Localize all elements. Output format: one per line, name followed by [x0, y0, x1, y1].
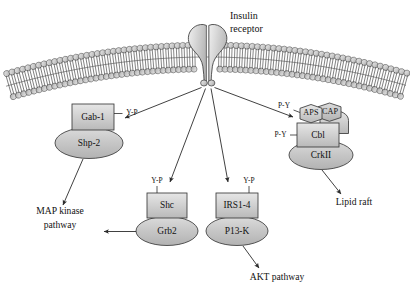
output-akt: AKT pathway: [250, 271, 305, 282]
node-shp2-label: Shp-2: [78, 138, 101, 148]
node-shc-label: Shc: [160, 200, 174, 210]
output-mapk-line1: MAP kinase: [36, 205, 83, 216]
receptor-label-line1: Insulin: [230, 10, 258, 21]
node-cbl-label: Cbl: [311, 130, 325, 140]
node-irs-label: IRS1-4: [223, 200, 250, 210]
phospho-label-shc: Y-P: [151, 176, 162, 185]
phospho-label-irs: Y-P: [243, 176, 254, 185]
phospho-label-aps: P-Y: [278, 101, 291, 110]
receptor-tip-right: [208, 80, 215, 86]
node-grb2-label: Grb2: [157, 226, 177, 236]
receptor-label-line2: receptor: [230, 23, 263, 34]
phospho-label-gab1: Y-P: [126, 108, 137, 117]
node-cap-label: CAP: [322, 107, 339, 116]
node-crkii-label: CrkII: [311, 150, 331, 160]
receptor-tip-left: [201, 80, 208, 86]
node-aps-label: APS: [303, 108, 319, 117]
insulin-signaling-diagram: Insulin receptor Shp-2 Gab-1 Y-P: [0, 0, 410, 293]
node-pi3k-label: P13-K: [225, 226, 250, 236]
output-mapk-line2: pathway: [44, 219, 77, 230]
phospho-label-cbl: P-Y: [274, 130, 287, 139]
figure-canvas: Insulin receptor Shp-2 Gab-1 Y-P: [0, 0, 410, 293]
node-gab1-label: Gab-1: [81, 112, 105, 122]
output-lipid-raft: Lipid raft: [336, 196, 373, 207]
